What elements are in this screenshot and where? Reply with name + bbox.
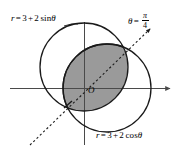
label-origin: O [88, 86, 95, 95]
label-ray-fraction: π4 [142, 12, 149, 30]
label-cos-function: cos [124, 130, 138, 140]
label-cos-theta: θ [138, 130, 143, 140]
polar-figure: r=3+2sinθ r=3+2cosθ θ=π4 O [0, 0, 182, 154]
label-ray-equals: = [133, 17, 141, 26]
label-sin-curve: r=3+2sinθ [11, 14, 56, 23]
label-cos-curve: r=3+2cosθ [96, 131, 142, 140]
label-ray-numerator: π [142, 12, 148, 21]
figure-canvas [0, 0, 182, 154]
label-sin-theta: θ [51, 13, 56, 23]
label-sin-function: sin [39, 13, 51, 23]
label-ray-denominator: 4 [142, 21, 148, 30]
label-ray-angle: θ=π4 [128, 12, 149, 30]
